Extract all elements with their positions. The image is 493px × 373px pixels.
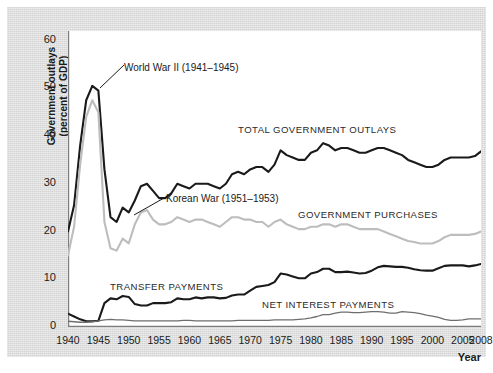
x-tick-label-1970: 1970 (233, 334, 267, 346)
world-war-2-leader-line (100, 65, 124, 88)
y-tick-label-40: 40 (30, 128, 56, 140)
x-tick-label-1975: 1975 (264, 334, 298, 346)
y-tick-label-60: 60 (30, 33, 56, 45)
world-war-2-annotation: World War II (1941–1945) (124, 62, 239, 73)
y-axis-title: Government outlays (percent of GDP) (46, 0, 70, 196)
series-label-government-purchases: GOVERNMENT PURCHASES (298, 209, 438, 220)
series-label-transfer-payments: TRANSFER PAYMENTS (110, 281, 223, 292)
x-axis-title: Year (458, 351, 481, 363)
series-line-2 (68, 264, 481, 321)
chart-figure: Government outlays (percent of GDP) 0102… (0, 0, 493, 373)
x-tick-label-2008: 2008 (464, 334, 493, 346)
x-tick-label-1995: 1995 (385, 334, 419, 346)
series-label-net-interest-payments: NET INTEREST PAYMENTS (262, 299, 394, 310)
y-tick-label-50: 50 (30, 80, 56, 92)
x-tick-label-1980: 1980 (294, 334, 328, 346)
x-tick-label-1945: 1945 (81, 334, 115, 346)
korean-war-annotation: Korean War (1951–1953) (166, 193, 278, 204)
x-tick-label-1955: 1955 (142, 334, 176, 346)
y-tick-label-30: 30 (30, 176, 56, 188)
y-tick-label-0: 0 (30, 319, 56, 331)
series-line-3 (68, 312, 481, 323)
x-tick-label-1990: 1990 (355, 334, 389, 346)
x-tick-label-1940: 1940 (51, 334, 85, 346)
y-tick-label-20: 20 (30, 224, 56, 236)
x-tick-label-1960: 1960 (172, 334, 206, 346)
x-tick-label-2000: 2000 (415, 334, 449, 346)
series-label-total-government-outlays: TOTAL GOVERNMENT OUTLAYS (238, 124, 396, 135)
x-tick-label-1985: 1985 (324, 334, 358, 346)
x-tick-label-1965: 1965 (203, 334, 237, 346)
y-tick-label-10: 10 (30, 271, 56, 283)
x-tick-label-1950: 1950 (112, 334, 146, 346)
